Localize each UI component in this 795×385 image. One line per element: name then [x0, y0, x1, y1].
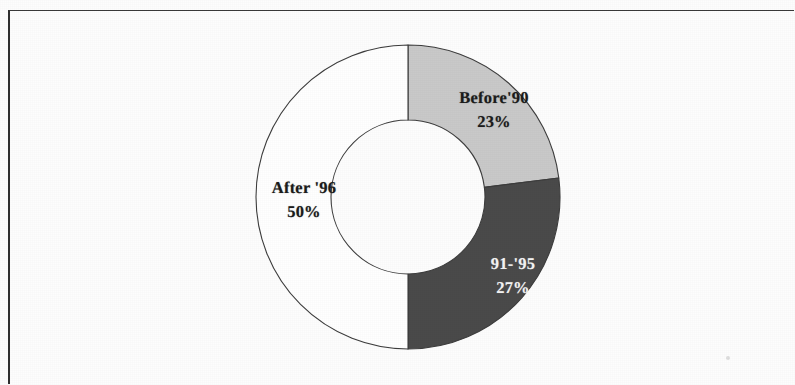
pie-slice-before-90[interactable] [408, 45, 559, 187]
donut-chart: Before'90 23% 91-'95 27% After '96 50% [0, 0, 795, 385]
pie-slice-after-96[interactable] [256, 45, 408, 349]
donut-chart-svg [0, 0, 795, 385]
figure-canvas: Before'90 23% 91-'95 27% After '96 50% [0, 0, 795, 385]
scan-speck-artifact [726, 356, 730, 360]
pie-slice-91-95[interactable] [408, 178, 560, 349]
